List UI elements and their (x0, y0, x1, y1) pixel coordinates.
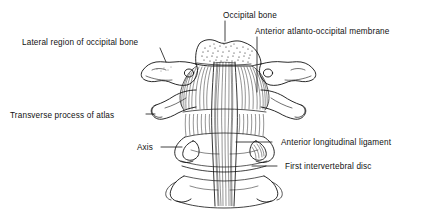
label-anterior-atlanto-occipital-membrane: Anterior atlanto-occipital membrane (255, 27, 390, 37)
ligament-left-border (212, 62, 215, 206)
axis-body-midline-right (230, 150, 258, 154)
label-lateral-region-of-occipital-bone: Lateral region of occipital bone (22, 38, 138, 48)
transverse-process-atlas-left-tip (152, 105, 162, 117)
membrane-right-outline (252, 66, 269, 110)
ligament-top-attachment (214, 62, 235, 63)
lateral-occipital-mass-left (141, 62, 197, 86)
ligament-fibres (215, 62, 233, 206)
atlas-arch-lower-edge (185, 133, 264, 137)
ligament-right-border (234, 62, 237, 206)
atlas-arch-upper-edge (183, 109, 266, 112)
transverse-process-atlas-right-tip (295, 105, 305, 117)
lateral-occipital-mass-left-ridge (146, 76, 172, 80)
c3-body-right-inner (230, 186, 258, 190)
occipital-stipple (201, 44, 252, 63)
atlas-arch-fibres-right (239, 109, 264, 136)
leader-lateral-region (160, 48, 166, 62)
disc-lower-edge (184, 176, 264, 181)
anterior-longitudinal-ligament-group (212, 62, 238, 206)
atlas-arch-fibres-left (185, 109, 210, 136)
c3-left-outline (170, 176, 191, 202)
c3-right-outline (257, 176, 278, 202)
first-intervertebral-disc-group (182, 166, 266, 181)
lateral-occipital-mass-right-inner (291, 69, 305, 71)
c3-body-lower-edge (177, 201, 271, 208)
lateral-occipital-mass-right-ridge (285, 76, 311, 80)
axis-group (175, 137, 275, 167)
occipital-basilar-lower-edge (197, 63, 251, 65)
label-anterior-longitudinal-ligament: Anterior longitudinal ligament (281, 138, 391, 148)
axis-superior-facet-right (250, 141, 266, 160)
membrane-fibres-right (238, 67, 267, 109)
lateral-occipital-mass-left-inner (152, 69, 166, 71)
axis-superior-facet-left (183, 141, 199, 160)
axis-body-midline-left (191, 150, 219, 154)
membrane-fibres-left (182, 67, 211, 109)
atlas-anterior-arch-group (183, 109, 266, 137)
label-occipital-bone: Occipital bone (223, 11, 277, 21)
foramen-transversarium-right (263, 69, 272, 77)
label-axis: Axis (137, 143, 153, 153)
lateral-occipital-mass-right (260, 62, 316, 86)
anatomy-figure: Occipital bone Anterior atlanto-occipita… (0, 0, 445, 219)
label-first-intervertebral-disc: First intervertebral disc (285, 162, 372, 172)
membrane-left-outline (180, 66, 197, 110)
label-transverse-process-of-atlas: Transverse process of atlas (10, 111, 114, 121)
